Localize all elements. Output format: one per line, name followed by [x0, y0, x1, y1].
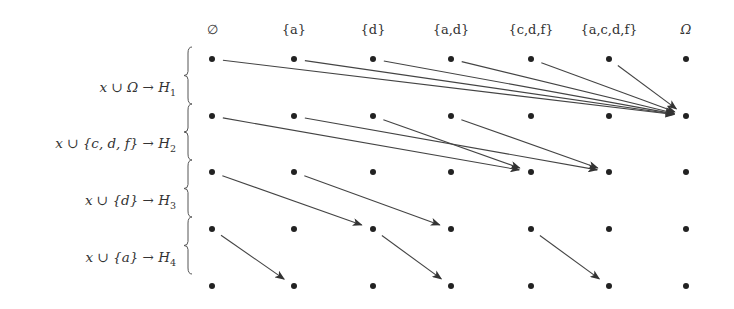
node — [528, 56, 534, 62]
node — [209, 169, 215, 175]
row-label-h1: x ∪ Ω → H1 — [100, 79, 176, 98]
row-label-text: x ∪ {d} → H — [85, 192, 170, 208]
node — [291, 283, 297, 289]
row-label-h3: x ∪ {d} → H3 — [85, 192, 176, 211]
arrow — [618, 66, 677, 109]
row-labels: x ∪ Ω → H1x ∪ {c, d, f} → H2x ∪ {d} → H3… — [55, 79, 176, 268]
node — [209, 283, 215, 289]
node — [370, 56, 376, 62]
brace — [184, 160, 192, 217]
node — [448, 169, 454, 175]
column-label: {a,d} — [433, 22, 470, 37]
node — [606, 283, 612, 289]
node — [209, 56, 215, 62]
brace — [184, 217, 192, 274]
lattice-diagram: ∅{a}{d}{a,d}{c,d,f}{a,c,d,f}Ω x ∪ Ω → H1… — [0, 0, 734, 309]
arrow — [222, 176, 361, 225]
node — [606, 226, 612, 232]
node — [448, 56, 454, 62]
node — [528, 113, 534, 119]
node — [291, 113, 297, 119]
column-label: {a,c,d,f} — [580, 22, 637, 37]
node — [291, 226, 297, 232]
node — [370, 113, 376, 119]
arrow — [382, 235, 441, 278]
node — [683, 169, 689, 175]
node — [370, 283, 376, 289]
node — [370, 169, 376, 175]
node — [448, 283, 454, 289]
column-label: {d} — [361, 22, 386, 37]
node — [291, 169, 297, 175]
arrow — [384, 61, 674, 114]
column-label: {c,d,f} — [508, 22, 553, 37]
row-label-h2: x ∪ {c, d, f} → H2 — [55, 135, 176, 154]
arrow — [461, 120, 597, 168]
node — [683, 56, 689, 62]
row-label-subscript: 4 — [170, 257, 176, 268]
arrow — [221, 235, 284, 279]
braces — [184, 47, 192, 274]
row-label-h4: x ∪ {a} → H4 — [86, 249, 176, 268]
node — [683, 113, 689, 119]
row-label-text: x ∪ {a} → H — [86, 249, 171, 265]
node — [209, 113, 215, 119]
brace — [184, 47, 192, 104]
row-label-text: x ∪ {c, d, f} → H — [55, 135, 170, 151]
node — [528, 226, 534, 232]
node — [683, 226, 689, 232]
node — [606, 113, 612, 119]
node — [448, 113, 454, 119]
node — [291, 56, 297, 62]
arrow — [540, 235, 599, 278]
column-label: Ω — [680, 22, 692, 37]
node — [528, 169, 534, 175]
row-label-subscript: 2 — [170, 143, 176, 154]
node — [606, 169, 612, 175]
column-labels: ∅{a}{d}{a,d}{c,d,f}{a,c,d,f}Ω — [207, 22, 692, 37]
arrow — [462, 62, 675, 114]
node — [448, 226, 454, 232]
row-label-text: x ∪ Ω → H — [100, 79, 171, 95]
arrow — [383, 120, 519, 168]
node — [209, 226, 215, 232]
column-label: ∅ — [207, 22, 218, 37]
arrow — [304, 176, 439, 225]
node — [683, 283, 689, 289]
brace — [184, 104, 192, 160]
column-label: {a} — [282, 22, 306, 37]
row-label-subscript: 1 — [170, 87, 176, 98]
arrow — [223, 118, 519, 170]
arrow — [223, 60, 674, 114]
node — [528, 283, 534, 289]
row-label-subscript: 3 — [170, 200, 176, 211]
node — [370, 226, 376, 232]
node — [606, 56, 612, 62]
